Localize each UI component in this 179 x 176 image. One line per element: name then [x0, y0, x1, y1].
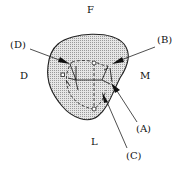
label-left-d: D — [20, 71, 28, 81]
callout-a: (A) — [136, 124, 151, 134]
label-bottom-l: L — [91, 137, 98, 147]
label-top-f: F — [87, 5, 94, 15]
outer-section-shape — [48, 34, 129, 119]
callout-d: (D) — [10, 40, 26, 50]
left-square-marker — [61, 73, 65, 77]
callout-b: (B) — [157, 35, 172, 45]
label-right-m: M — [140, 71, 150, 81]
leader-line-c — [107, 102, 127, 148]
bottom-circle-marker — [92, 107, 96, 111]
callout-c: (C) — [126, 151, 141, 161]
top-circle-marker — [92, 61, 96, 65]
cross-section-diagram — [0, 0, 179, 176]
leader-line-a — [117, 91, 137, 122]
